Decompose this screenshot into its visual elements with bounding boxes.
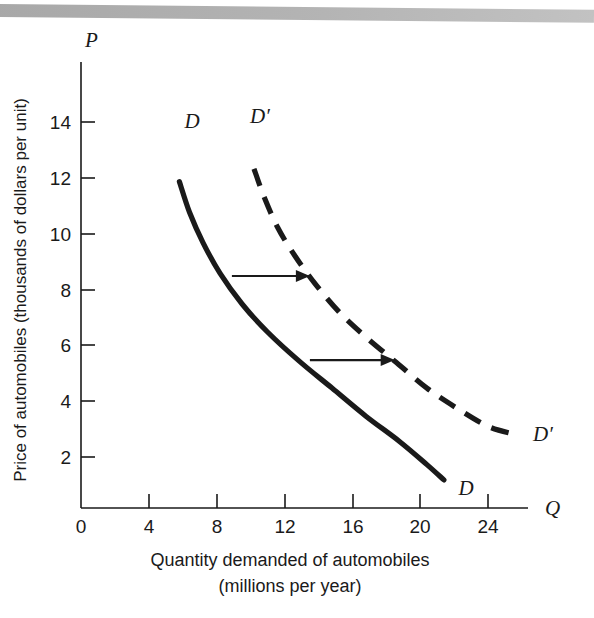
- demand-curve-D: [179, 182, 444, 480]
- y-tick-label-12: 12: [50, 168, 71, 189]
- x-tick-label-12: 12: [274, 516, 295, 537]
- shift-arrow-upper-head: [296, 270, 310, 282]
- x-tick-label-4: 4: [144, 516, 155, 537]
- curve-label-D-prime-bottom: D′: [532, 422, 553, 446]
- y-tick-label-6: 6: [60, 335, 71, 356]
- shift-arrow-lower-head: [381, 354, 395, 366]
- x-axis-title-line2: (millions per year): [218, 576, 361, 596]
- curve-label-D-prime-top: D′: [249, 104, 270, 128]
- y-axis-ticks: [81, 122, 95, 457]
- x-axis-symbol-Q: Q: [545, 496, 560, 520]
- y-tick-label-10: 10: [50, 224, 71, 245]
- x-tick-label-24: 24: [477, 516, 499, 537]
- x-tick-label-20: 20: [409, 516, 430, 537]
- x-axis-ticks: [149, 494, 488, 508]
- y-tick-label-4: 4: [60, 391, 71, 412]
- demand-curve-D-prime: [254, 169, 513, 434]
- x-tick-label-16: 16: [342, 516, 363, 537]
- curve-label-D-bottom: D: [457, 476, 473, 500]
- y-tick-label-14: 14: [50, 112, 72, 133]
- curve-label-D-top: D: [183, 109, 199, 133]
- y-axis-title: Price of automobiles (thousands of dolla…: [11, 98, 30, 482]
- x-tick-label-8: 8: [212, 516, 223, 537]
- shift-arrow-lower: [310, 354, 395, 366]
- x-axis-tick-labels: 0 4 8 12 16 20 24: [76, 516, 499, 537]
- shift-arrow-upper: [232, 270, 310, 282]
- x-tick-label-0: 0: [76, 516, 87, 537]
- y-tick-label-8: 8: [60, 280, 71, 301]
- y-tick-label-2: 2: [60, 447, 71, 468]
- x-axis-title-line1: Quantity demanded of automobiles: [150, 550, 429, 570]
- y-axis-tick-labels: 14 12 10 8 6 4 2: [50, 112, 72, 468]
- y-axis-symbol-P: P: [84, 28, 98, 52]
